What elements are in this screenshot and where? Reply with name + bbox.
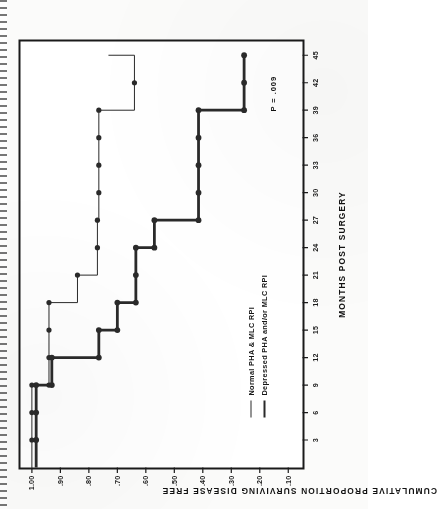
series-2	[33, 52, 247, 467]
legend-item: Depressed PHA and/or MLC RPI	[257, 274, 270, 417]
x-tick-label: 3	[310, 437, 319, 441]
legend-swatch-thin-line	[250, 400, 251, 417]
y-axis-title: CUMULATIVE PROPORTION SURVIVING DISEASE …	[161, 485, 437, 495]
y-tick-label: 1.00	[27, 475, 36, 509]
x-tick-label: 9	[310, 382, 319, 386]
x-tick-label: 18	[310, 298, 319, 306]
y-tick-label: .80	[84, 475, 93, 509]
x-tick-label: 24	[310, 243, 319, 251]
x-tick-label: 21	[310, 270, 319, 278]
x-tick-label: 12	[310, 353, 319, 361]
x-tick-label: 45	[310, 51, 319, 59]
x-tick-label: 36	[310, 133, 319, 141]
y-tick-label: .70	[112, 475, 121, 509]
x-tick-label: 33	[310, 160, 319, 168]
x-tick-label: 27	[310, 215, 319, 223]
x-tick-label: 15	[310, 325, 319, 333]
chart-legend: Normal PHA & MLC RPI Depressed PHA and/o…	[244, 274, 270, 417]
legend-swatch-thick-line	[263, 400, 265, 417]
x-tick-label: 6	[310, 410, 319, 414]
legend-label: Normal PHA & MLC RPI	[246, 306, 255, 395]
x-tick-label: 42	[310, 78, 319, 86]
x-tick-label: 30	[310, 188, 319, 196]
legend-label: Depressed PHA and/or MLC RPI	[259, 274, 268, 395]
x-axis-title: MONTHS POST SURGERY	[336, 191, 346, 318]
y-tick-label: .90	[55, 475, 64, 509]
x-tick-label: 39	[310, 106, 319, 114]
y-tick-label: .60	[141, 475, 150, 509]
p-value-annotation: P = .009	[268, 75, 277, 111]
series-1	[29, 55, 137, 467]
legend-item: Normal PHA & MLC RPI	[244, 274, 257, 417]
